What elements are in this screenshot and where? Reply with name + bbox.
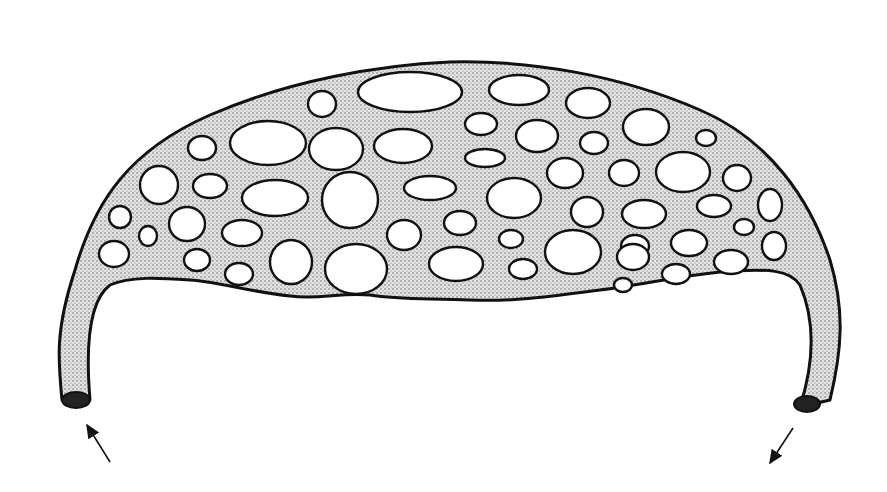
pore-hole <box>580 132 608 154</box>
inflow-arrow-icon <box>87 425 110 462</box>
pore-hole <box>230 121 306 165</box>
pore-hole <box>225 263 253 285</box>
pore-hole <box>609 160 639 186</box>
pore-hole <box>714 250 748 274</box>
flow-arrows <box>87 425 793 463</box>
pore-hole <box>309 128 363 170</box>
pore-hole <box>139 226 157 246</box>
pore-hole <box>656 152 710 192</box>
pore-hole <box>516 120 558 152</box>
pore-hole <box>758 189 782 221</box>
pore-hole <box>614 278 632 292</box>
pore-hole <box>325 244 387 294</box>
pore-hole <box>762 232 786 260</box>
pore-hole <box>696 130 716 146</box>
pore-hole <box>140 166 178 204</box>
perforated-membrane-illustration <box>0 0 887 492</box>
pore-hole <box>358 72 462 112</box>
left-tube-opening <box>62 392 90 408</box>
pore-hole <box>322 172 378 228</box>
pore-hole <box>169 207 205 241</box>
figure-canvas <box>0 0 887 492</box>
pore-hole <box>374 129 432 163</box>
pore-hole <box>723 165 751 191</box>
pore-hole <box>222 220 262 246</box>
pore-hole <box>697 195 731 217</box>
pore-hole <box>270 240 312 284</box>
outflow-arrow-icon <box>770 428 793 463</box>
pore-hole <box>566 88 610 118</box>
pore-hole <box>623 109 669 145</box>
pore-hole <box>109 206 131 228</box>
pore-hole <box>545 230 601 274</box>
pore-hole <box>429 247 483 281</box>
pore-hole <box>734 219 754 235</box>
pore-hole <box>184 249 210 271</box>
pore-hole <box>487 178 541 218</box>
pore-hole <box>499 230 523 248</box>
pore-hole <box>308 91 336 117</box>
pore-hole <box>465 149 505 167</box>
pore-hole <box>671 230 707 256</box>
pore-hole <box>188 136 216 160</box>
pore-hole <box>193 174 227 198</box>
pore-hole <box>99 241 129 267</box>
pore-hole <box>662 264 690 284</box>
pore-hole <box>622 200 666 228</box>
pore-hole <box>387 220 421 250</box>
pore-hole <box>571 197 603 227</box>
pore-hole <box>547 158 583 188</box>
pore-hole <box>509 259 537 279</box>
right-tube-opening <box>794 396 820 412</box>
pore-hole <box>242 180 308 216</box>
pore-hole <box>617 244 649 270</box>
pore-hole <box>489 75 549 105</box>
pore-hole <box>404 176 456 200</box>
pore-hole <box>465 113 497 135</box>
pore-hole <box>444 211 476 235</box>
